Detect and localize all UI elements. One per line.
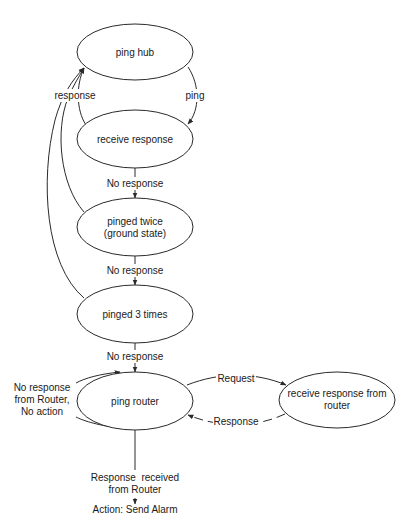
edge-label-no-response-3: No response: [107, 351, 164, 362]
node-receive-response-from-router: receive response from router: [279, 372, 395, 428]
node-label-line2: router: [324, 400, 351, 411]
node-pinged-twice: pinged twice (ground state): [77, 198, 193, 256]
state-diagram: ping hub receive response pinged twice (…: [0, 0, 417, 532]
node-label: receive response: [97, 134, 174, 145]
edge-label-no-response-2: No response: [107, 265, 164, 276]
terminal-line3: Action: Send Alarm: [92, 504, 177, 515]
node-ping-hub: ping hub: [77, 24, 193, 80]
edge-label-response: response: [54, 90, 96, 101]
terminal-line1: Response received: [91, 472, 179, 483]
self-loop-label-line2: from Router,: [14, 394, 69, 405]
node-label: pinged 3 times: [102, 309, 167, 320]
node-label-line1: receive response from: [288, 388, 387, 399]
edge-label-request: Request: [217, 373, 254, 384]
edge-label-response-router: Response: [213, 416, 258, 427]
edge-label-no-response-1: No response: [107, 178, 164, 189]
node-ping-router: ping router: [77, 372, 193, 430]
edge-label-ping: ping: [186, 90, 205, 101]
node-receive-response: receive response: [77, 110, 193, 168]
self-loop-label-line3: No action: [21, 406, 63, 417]
terminal-line2: from Router: [109, 484, 162, 495]
node-label-line1: pinged twice: [107, 216, 163, 227]
node-label-line2: (ground state): [104, 228, 166, 239]
self-loop-label-line1: No response: [14, 382, 71, 393]
node-label: ping router: [111, 396, 159, 407]
node-label: ping hub: [116, 47, 155, 58]
node-pinged-3-times: pinged 3 times: [77, 285, 193, 343]
